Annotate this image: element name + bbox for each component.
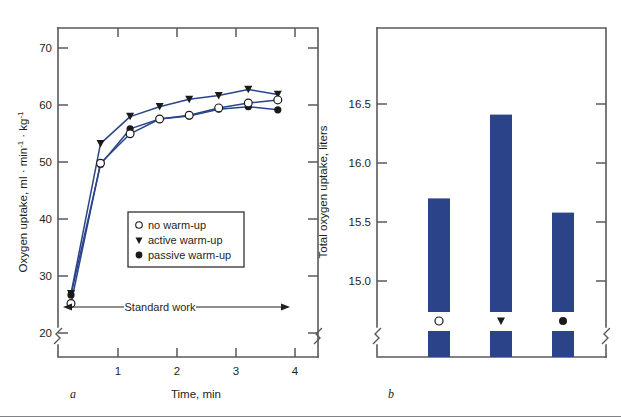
panel-a-xtick-label-3: 3 <box>233 365 239 377</box>
panel-a-yaxis-lower <box>58 345 318 357</box>
standard-work-arrowhead-right-icon <box>281 304 290 311</box>
legend-marker-open-circle-icon <box>136 222 143 229</box>
svg-text:Oxygen uptake, ml · min-1 · kg: Oxygen uptake, ml · min-1 · kg-1 <box>16 112 29 273</box>
legend-label-passive-warmup: passive warm-up <box>148 249 231 261</box>
panel-a-ytick-label-30: 30 <box>39 270 52 282</box>
yaxis-title-sup1: -1 <box>16 141 25 148</box>
legend-label-no-warmup: no warm-up <box>148 219 206 231</box>
panel-a-xtick-label-2: 2 <box>174 365 180 377</box>
panel-a: 70 60 50 40 30 20 1 2 3 4 Time, min <box>16 28 322 401</box>
panel-a-xtick-label-4: 4 <box>292 365 299 377</box>
bar-active-warmup <box>490 115 512 312</box>
panel-b-raxis-break <box>602 328 610 344</box>
figure-svg: 70 60 50 40 30 20 1 2 3 4 Time, min <box>0 0 621 417</box>
bar-marker-filled-triangle-icon <box>497 318 505 326</box>
panel-a-standard-work-annotation: Standard work <box>63 301 290 313</box>
bar-no-warmup-base <box>428 331 450 357</box>
panel-a-ytick-label-70: 70 <box>39 42 52 54</box>
panel-b-ytick-label-165: 16.5 <box>349 98 371 110</box>
series-line-no-warmup <box>71 100 278 304</box>
panel-b-yaxis-title: Total oxygen uptake, liters <box>317 125 329 258</box>
bar-passive-warmup <box>552 213 574 312</box>
bar-marker-open-circle-icon <box>435 317 443 325</box>
panel-b: 16.5 16.0 15.5 15.0 Total oxygen uptake,… <box>317 28 610 401</box>
markers-passive-warmup <box>67 103 281 298</box>
bar-no-warmup <box>428 198 450 312</box>
panel-a-ytick-label-50: 50 <box>39 156 52 168</box>
markers-no-warmup <box>67 96 282 307</box>
panel-a-label: a <box>70 387 76 401</box>
panel-a-ytick-label-40: 40 <box>39 213 52 225</box>
panel-b-label: b <box>388 387 394 401</box>
bar-passive-warmup-base <box>552 331 574 357</box>
panel-a-yaxis-title: Oxygen uptake, ml · min-1 · kg-1 <box>16 112 29 273</box>
panel-b-ytick-label-155: 15.5 <box>349 216 371 228</box>
panel-a-yaxis-break <box>54 328 62 344</box>
panel-a-xaxis-title: Time, min <box>171 388 221 400</box>
yaxis-title-part2: · kg <box>17 118 29 140</box>
standard-work-label: Standard work <box>125 301 196 313</box>
panel-a-ytick-label-20: 20 <box>39 327 52 339</box>
panel-b-yaxis-break <box>373 328 381 344</box>
panel-b-ytick-label-150: 15.0 <box>349 275 371 287</box>
panel-b-ytick-label-160: 16.0 <box>349 157 371 169</box>
panel-b-yaxis-title-text: Total oxygen uptake, liters <box>317 125 329 258</box>
bar-marker-filled-circle-icon <box>559 317 567 325</box>
panel-a-ytick-label-60: 60 <box>39 99 52 111</box>
panel-a-legend: no warm-up active warm-up passive warm-u… <box>128 212 244 267</box>
yaxis-title-sup2: -1 <box>16 112 25 119</box>
yaxis-title-part1: Oxygen uptake, ml · min <box>17 148 29 273</box>
panel-b-category-markers <box>435 317 567 325</box>
bar-active-warmup-base <box>490 331 512 357</box>
panel-a-xtick-label-1: 1 <box>115 365 121 377</box>
figure-container: 70 60 50 40 30 20 1 2 3 4 Time, min <box>0 0 621 417</box>
legend-label-active-warmup: active warm-up <box>148 234 223 246</box>
legend-marker-filled-circle-icon <box>136 252 143 259</box>
